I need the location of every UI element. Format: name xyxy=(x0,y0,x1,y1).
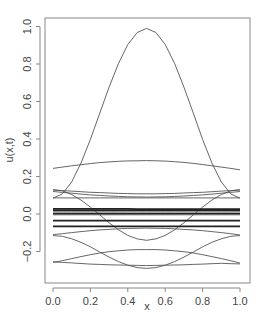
x-tick-label: 0.8 xyxy=(195,295,210,307)
curves xyxy=(53,28,240,268)
x-tick-label: 0.0 xyxy=(45,295,60,307)
y-axis: −0.20.00.20.40.60.81.0 xyxy=(21,19,40,263)
y-tick-label: 1.0 xyxy=(21,19,33,34)
series-line-t0 xyxy=(53,28,240,198)
series-line-t6 xyxy=(53,262,240,266)
plot-frame xyxy=(45,18,250,283)
series-line-t8 xyxy=(53,192,240,198)
y-tick-label: 0.8 xyxy=(21,56,33,71)
y-tick-label: 0.0 xyxy=(21,206,33,221)
y-tick-label: 0.4 xyxy=(21,131,33,146)
series-line-t5 xyxy=(53,228,240,235)
x-axis-label: x xyxy=(144,300,150,312)
x-tick-label: 1.0 xyxy=(232,295,247,307)
y-tick-label: 0.2 xyxy=(21,169,33,184)
series-line-t4 xyxy=(53,250,240,264)
x-tick-label: 0.6 xyxy=(158,295,173,307)
series-line-t7 xyxy=(53,190,240,194)
x-tick-label: 0.2 xyxy=(83,295,98,307)
chart: 0.00.20.40.60.81.0 −0.20.00.20.40.60.81.… xyxy=(0,0,265,325)
y-axis-label: u(x,t) xyxy=(3,137,15,162)
x-tick-label: 0.4 xyxy=(120,295,135,307)
y-tick-label: 0.6 xyxy=(21,94,33,109)
y-tick-label: −0.2 xyxy=(21,241,33,263)
